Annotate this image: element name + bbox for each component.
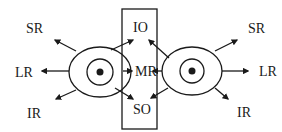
label-left-lr: LR: [15, 65, 34, 80]
arrow-right-sr: [215, 40, 237, 51]
arrow-left-ir: [56, 90, 76, 99]
eye-muscle-diagram: SR LR IR IO MR SO SR LR IR: [0, 0, 282, 132]
left-eye: [42, 40, 133, 99]
label-so: SO: [133, 102, 151, 117]
label-right-lr: LR: [259, 64, 278, 79]
arrow-left-sr: [55, 40, 76, 51]
arrow-right-ir: [215, 88, 228, 99]
right-eye: [149, 40, 248, 99]
label-left-sr: SR: [26, 21, 44, 36]
label-io: IO: [133, 20, 148, 35]
arrow-right-so: [151, 88, 168, 98]
label-right-ir: IR: [237, 105, 252, 120]
arrow-right-io: [149, 40, 169, 58]
label-right-sr: SR: [248, 21, 266, 36]
label-left-ir: IR: [27, 106, 42, 121]
arrow-left-so: [115, 88, 133, 99]
label-mr: MR: [135, 64, 157, 79]
